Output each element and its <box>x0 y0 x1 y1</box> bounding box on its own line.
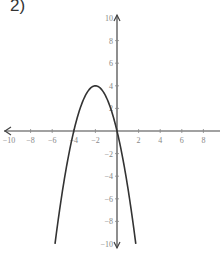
y-tick-label: 4 <box>109 82 113 91</box>
y-tick-label: −2 <box>104 150 113 159</box>
x-tick-label: 2 <box>137 136 141 145</box>
parabola-graph: −10−8−6−4−224681−10−8−6−4−2246810 <box>0 0 220 257</box>
x-tick-label: −2 <box>91 136 100 145</box>
x-tick-label: 6 <box>180 136 184 145</box>
y-tick-label: −8 <box>104 217 113 226</box>
y-tick-label: −4 <box>104 172 113 181</box>
y-tick-label: −6 <box>104 195 113 204</box>
y-tick-label: 8 <box>109 37 113 46</box>
x-tick-label: −10 <box>3 136 16 145</box>
x-tick-label: 4 <box>158 136 162 145</box>
y-tick-label: −10 <box>100 240 113 249</box>
x-tick-label: −8 <box>26 136 35 145</box>
y-tick-label: 6 <box>109 59 113 68</box>
x-tick-label: 8 <box>201 136 205 145</box>
y-tick-label: 10 <box>105 14 113 23</box>
x-tick-label: −6 <box>48 136 57 145</box>
parabola-curve <box>55 86 136 244</box>
